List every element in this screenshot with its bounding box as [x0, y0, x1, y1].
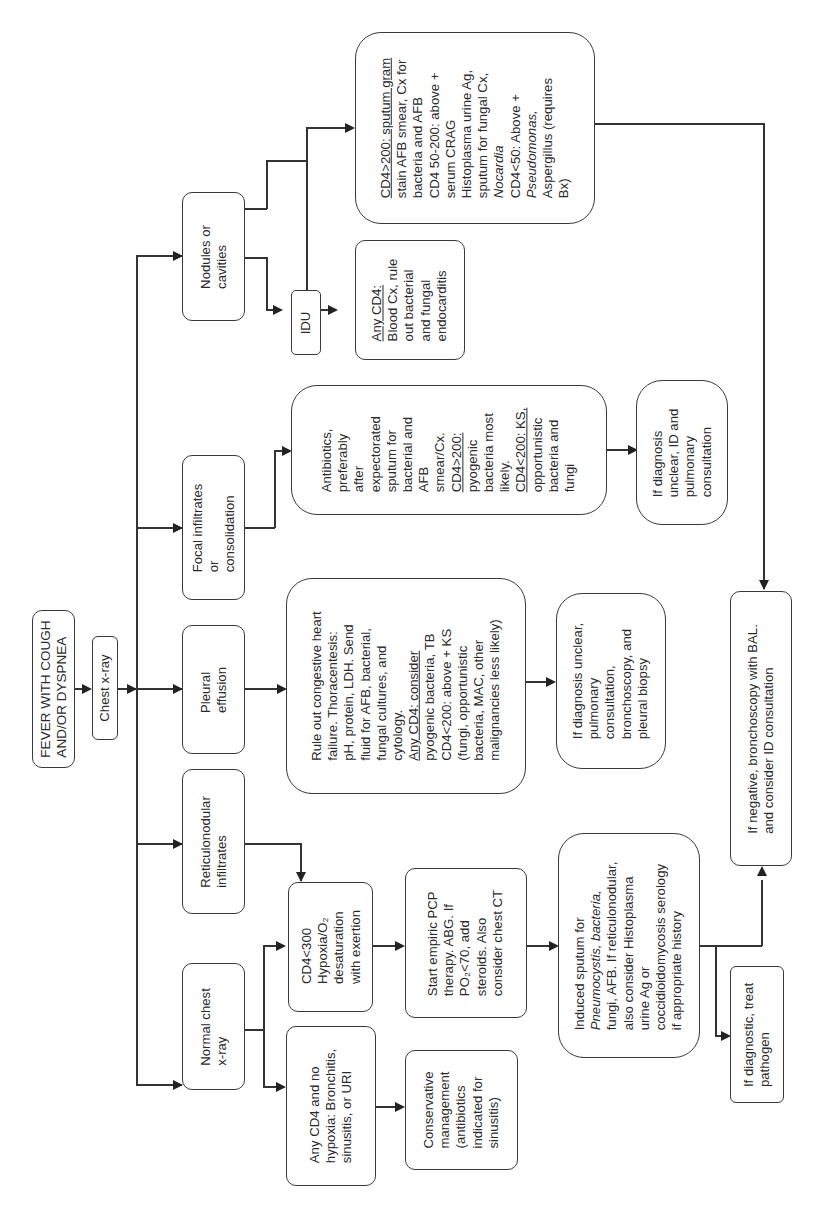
- arrow-icon: [328, 305, 338, 315]
- chest-xray-box: Chest x-ray: [92, 636, 118, 740]
- branch-nodules-cavities: Nodules or cavities: [182, 192, 245, 321]
- arrow-icon: [276, 941, 286, 951]
- branch-focal-infiltrates: Focal infiltrates or consolidation: [182, 455, 245, 600]
- if-negative-box: If negative, bronchoscopy with BAL. and …: [730, 591, 792, 866]
- connector: [761, 880, 763, 946]
- arrow-icon: [759, 580, 769, 590]
- pleural-workup-box: Rule out congestive heart failure. Thora…: [286, 578, 526, 794]
- pleural-unclear-box: If diagnosis unclear, pulmonary consulta…: [556, 593, 666, 769]
- connector: [306, 127, 346, 129]
- start-text: FEVER WITH COUGH AND/OR DYSPNEA: [37, 620, 69, 757]
- connector: [245, 257, 267, 259]
- connector: [763, 123, 765, 589]
- branch-normal-chest-xray: Normal chest x-ray: [182, 963, 245, 1090]
- connector: [245, 208, 267, 210]
- arrow-icon: [273, 305, 283, 315]
- arrow-icon: [82, 684, 92, 694]
- arrow-icon: [276, 1082, 286, 1092]
- focal-unclear-box: If diagnosis unclear, ID and pulmonary c…: [636, 380, 728, 525]
- connector: [266, 257, 268, 310]
- idu-box: IDU: [291, 290, 321, 355]
- arrow-icon: [395, 1102, 405, 1112]
- branch-reticulonodular: Reticulonodular infiltrates: [182, 769, 245, 914]
- start-box: FEVER WITH COUGH AND/OR DYSPNEA: [32, 610, 75, 768]
- connector: [245, 843, 302, 845]
- focal-workup-box: Antibiotics, preferably after expectorat…: [291, 385, 607, 515]
- connector: [274, 450, 276, 528]
- arrow-icon: [546, 677, 556, 687]
- connector: [715, 945, 717, 1036]
- arrow-icon: [757, 866, 767, 876]
- idu-workup-box: Any CD4: Blood Cx, rule out bacterial an…: [355, 240, 465, 360]
- conservative-box: Conservative management (antibiotics ind…: [405, 1050, 518, 1170]
- arrow-icon: [296, 872, 306, 882]
- no-hypoxia-box: Any CD4 and no hypoxia: Bronchitis, sinu…: [286, 1026, 376, 1186]
- branch-pleural-effusion: Pleural effusion: [182, 625, 245, 754]
- connector: [700, 945, 762, 947]
- nodules-workup-box: CD4>200: sputum gram stain AFB smear, Cx…: [355, 32, 595, 224]
- connector: [594, 123, 764, 125]
- if-diagnostic-box: If diagnostic, treat pathogen: [730, 966, 784, 1103]
- pcp-therapy-box: Start empiric PCP therapy. ABG. If PO₂<7…: [405, 868, 527, 1018]
- connector: [266, 160, 268, 209]
- induced-sputum-box: Induced sputum for Pneumocystis, bacteri…: [558, 833, 700, 1058]
- connector: [263, 945, 265, 1087]
- cd4-hypoxia-box: CD4<300 Hypoxia/O₂ desaturation with exe…: [288, 882, 373, 1012]
- connector: [245, 527, 275, 529]
- connector: [306, 127, 308, 290]
- connector: [245, 1029, 263, 1031]
- connector: [266, 160, 306, 162]
- trunk-line: [136, 255, 138, 1085]
- chest-xray-text: Chest x-ray: [97, 654, 113, 721]
- arrow-icon: [395, 941, 405, 951]
- arrow-icon: [345, 123, 355, 133]
